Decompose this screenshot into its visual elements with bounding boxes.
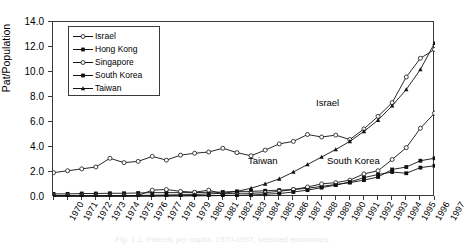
x-tick-label: 1988 — [321, 200, 340, 222]
x-tick-label: 1990 — [349, 200, 368, 222]
data-point — [291, 190, 295, 194]
x-tick-label: 1985 — [278, 200, 297, 222]
legend-item-israel: Israel — [73, 30, 155, 43]
x-tick-label: 1975 — [137, 200, 156, 222]
data-point — [221, 146, 225, 150]
data-point — [334, 133, 338, 137]
data-point — [306, 133, 310, 137]
x-tick-label: 1976 — [151, 200, 170, 222]
x-tick-label: 1992 — [377, 200, 396, 222]
data-point — [376, 114, 380, 118]
data-point — [432, 41, 435, 45]
data-point — [433, 111, 436, 115]
data-point — [418, 159, 422, 163]
x-tick-label: 1979 — [194, 200, 213, 222]
x-tick-label: 1970 — [67, 200, 86, 222]
data-point — [235, 151, 239, 155]
data-point — [404, 165, 408, 169]
x-tick-label: 1995 — [419, 200, 438, 222]
data-point — [319, 155, 323, 159]
legend-item-hong-kong: Hong Kong — [73, 43, 155, 56]
data-point — [80, 167, 84, 171]
data-point — [164, 158, 168, 162]
data-point — [404, 75, 408, 79]
data-point — [320, 135, 324, 139]
data-point — [207, 188, 211, 192]
legend-label: South Korea — [95, 70, 142, 81]
data-point — [108, 156, 112, 160]
data-point — [334, 147, 338, 151]
x-tick-label: 1974 — [123, 200, 142, 222]
legend-item-taiwan: Taiwan — [73, 82, 155, 95]
y-tick-label: 4.0 — [4, 141, 44, 152]
legend-item-south-korea: South Korea — [73, 69, 155, 82]
data-point — [433, 48, 436, 52]
data-point — [320, 186, 324, 190]
data-point — [305, 162, 309, 166]
legend-marker-icon — [73, 57, 93, 68]
annotation-israel: Israel — [316, 97, 339, 108]
data-point — [53, 171, 56, 175]
x-tick-label: 1993 — [391, 200, 410, 222]
x-tick-label: 1986 — [292, 200, 311, 222]
x-tick-label: 1973 — [109, 200, 128, 222]
y-tick-label: 2.0 — [4, 166, 44, 177]
annotation-taiwan: Taiwan — [248, 155, 278, 166]
data-point — [404, 146, 408, 150]
x-tick-label: 1994 — [405, 200, 424, 222]
legend-label: Hong Kong — [95, 44, 138, 55]
data-point — [136, 159, 140, 163]
data-point — [291, 170, 295, 174]
x-tick-label: 1989 — [335, 200, 354, 222]
legend-label: Taiwan — [95, 83, 121, 94]
x-tick-label: 1996 — [433, 200, 452, 222]
data-point — [320, 182, 324, 186]
data-point — [263, 148, 267, 152]
data-point — [418, 56, 422, 60]
x-tick-label: 1978 — [179, 200, 198, 222]
x-tick-label: 1971 — [81, 200, 100, 222]
data-point — [249, 193, 253, 197]
legend-label: Israel — [95, 31, 116, 42]
legend: IsraelHong KongSingaporeSouth KoreaTaiwa… — [68, 26, 160, 96]
data-point — [207, 150, 211, 154]
x-tick-label: 1972 — [95, 200, 114, 222]
data-point — [277, 192, 281, 196]
legend-marker-icon — [73, 31, 93, 42]
data-point — [362, 176, 366, 180]
x-tick-label: 1991 — [363, 200, 382, 222]
x-tick-label: 1983 — [250, 200, 269, 222]
data-point — [235, 193, 239, 197]
legend-marker-icon — [73, 83, 93, 94]
data-point — [150, 154, 154, 158]
data-point — [418, 67, 422, 71]
data-point — [277, 142, 281, 146]
data-point — [66, 169, 70, 173]
data-point — [418, 126, 422, 130]
data-point — [263, 192, 267, 196]
data-point — [418, 166, 422, 170]
data-point — [122, 161, 126, 165]
data-point — [362, 172, 366, 176]
annotation-south-korea: South Korea — [327, 155, 380, 166]
data-point — [193, 151, 197, 155]
x-tick-label: 1987 — [306, 200, 325, 222]
data-point — [390, 170, 394, 174]
data-point — [376, 169, 380, 173]
x-tick-label: 1980 — [208, 200, 227, 222]
y-tick-label: 0.0 — [4, 191, 44, 202]
figure-caption: Fig. 1.1. Patents per capita, 1970-1997,… — [0, 235, 444, 244]
x-tick-label: 1997 — [448, 200, 466, 222]
legend-label: Singapore — [95, 57, 134, 68]
x-tick-label: 1977 — [165, 200, 184, 222]
data-point — [334, 183, 338, 187]
data-point — [348, 180, 352, 184]
x-tick-label: 1984 — [264, 200, 283, 222]
data-point — [150, 188, 154, 192]
data-point — [94, 165, 98, 169]
data-point — [390, 158, 394, 162]
data-point — [433, 156, 435, 160]
x-tick-label: 1981 — [222, 200, 241, 222]
data-point — [433, 164, 435, 168]
